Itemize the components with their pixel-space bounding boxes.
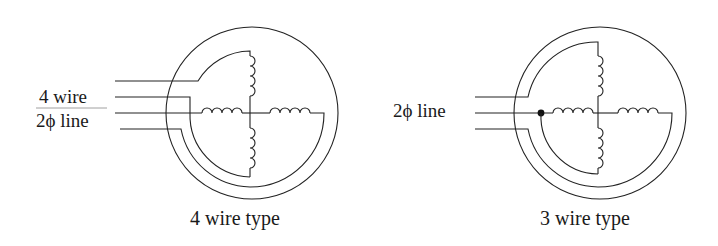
right-return-arc [250,113,324,187]
coil-right [618,108,658,113]
lead-wire-1 [475,42,598,97]
lead-wire-1 [115,51,250,81]
coil-upper [250,56,255,96]
coil-upper [598,56,603,96]
label-2phase-line: 2ϕ line [393,100,446,121]
label-4-wire: 4 wire [39,86,87,107]
lead-wire-3 [475,129,598,187]
inner-return-arc [190,113,250,177]
lead-wire-2 [115,97,190,113]
coil-lower [598,128,603,168]
four-wire-diagram: 4 wire 2ϕ line 4 wire type [36,27,338,230]
three-wire-diagram: 2ϕ line 3 wire type [393,27,686,230]
lead-wire-4 [120,129,250,187]
caption-3-wire-type: 3 wire type [540,207,630,230]
label-2phase-line: 2ϕ line [36,110,89,131]
coil-right [270,108,310,113]
coil-left [202,108,242,113]
coil-left [553,108,593,113]
coil-lower [250,128,255,168]
stepper-wiring-figure: 4 wire 2ϕ line 4 wire type 2ϕ line 3 wir… [0,0,718,246]
caption-4-wire-type: 4 wire type [190,207,280,230]
right-return-arc [598,113,672,187]
inner-return-arc [541,113,598,174]
